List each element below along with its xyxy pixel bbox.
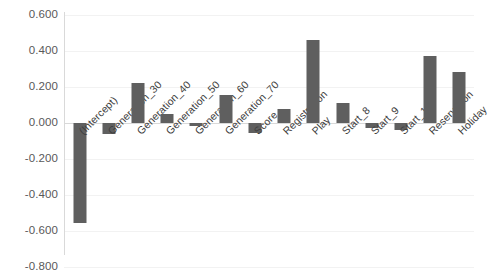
y-axis-tick-label: -0.600	[0, 225, 58, 237]
bar-slot	[123, 0, 152, 273]
y-axis-tick-label: 0.400	[0, 45, 58, 57]
bar-slot	[386, 0, 415, 273]
bar[interactable]	[424, 56, 437, 123]
bar[interactable]	[132, 83, 145, 123]
bar-slot	[65, 0, 94, 273]
bar-slot	[416, 0, 445, 273]
bar-slot	[182, 0, 211, 273]
bar[interactable]	[73, 123, 86, 223]
bar-slot	[240, 0, 269, 273]
bar-slot	[357, 0, 386, 273]
bar-slot	[328, 0, 357, 273]
y-axis-tick-label: -0.400	[0, 189, 58, 201]
bar-slot	[211, 0, 240, 273]
plot-area: (Intercept)Generation_30Generation_40Gen…	[65, 0, 474, 273]
y-axis-tick-label: 0.200	[0, 81, 58, 93]
bar-slot	[445, 0, 474, 273]
bar-slot	[153, 0, 182, 273]
bar[interactable]	[453, 72, 466, 123]
bar-slot	[299, 0, 328, 273]
y-axis-tick-label: 0.600	[0, 9, 58, 21]
bar-slot	[94, 0, 123, 273]
y-axis-tick-label: -0.800	[0, 261, 58, 273]
y-axis-tick-labels: 0.6000.4000.2000.000-0.200-0.400-0.600-0…	[0, 0, 58, 273]
bar[interactable]	[307, 40, 320, 123]
bar-slot	[270, 0, 299, 273]
y-axis-tick-label: -0.200	[0, 153, 58, 165]
y-axis-tick-label: 0.000	[0, 117, 58, 129]
